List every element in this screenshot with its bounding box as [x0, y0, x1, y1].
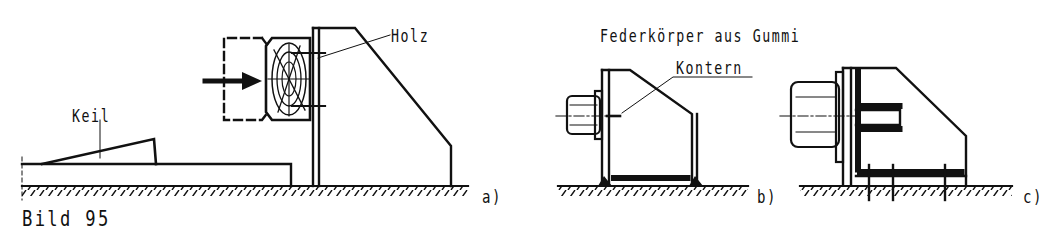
- motor-c: [780, 72, 855, 162]
- weld-seams-c: [858, 72, 964, 172]
- panel-c: [780, 68, 1012, 200]
- bracket-b: [602, 70, 697, 184]
- wedge: [42, 139, 156, 164]
- label-keil: Keil: [72, 106, 110, 126]
- base-plate: [22, 164, 291, 186]
- sublabel-a: a): [482, 186, 502, 207]
- figure-title: Bild 95: [22, 206, 111, 231]
- holz-leader: [318, 35, 390, 58]
- wooden-block: [266, 38, 325, 120]
- sublabel-c: c): [1023, 186, 1043, 207]
- technical-drawing: [0, 0, 1053, 236]
- label-kontern: Kontern: [676, 58, 743, 78]
- label-federkoerper: Federkörper aus Gummi: [600, 26, 800, 46]
- motor-b: [556, 91, 620, 139]
- label-holz: Holz: [391, 26, 429, 46]
- panel-b: [556, 70, 752, 196]
- ground-line-c: [800, 186, 1012, 196]
- kontern-leader: [622, 77, 752, 113]
- ground-line-b: [558, 186, 748, 196]
- sublabel-b: b): [757, 186, 777, 207]
- push-arrow-icon: [205, 72, 262, 90]
- bracket-a: [313, 28, 451, 186]
